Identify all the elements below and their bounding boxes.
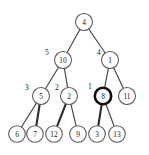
tree-edge-n1-n8 [105, 68, 109, 88]
tree-node-2: 2 [61, 88, 78, 105]
edge-label-4-n1: 4 [97, 48, 101, 57]
node-label-3: 3 [95, 130, 99, 139]
node-label-1: 1 [108, 56, 112, 65]
tree-node-1: 1 [102, 52, 119, 69]
node-label-11: 11 [123, 92, 130, 101]
tree-node-10: 10 [55, 52, 72, 69]
tree-node-8: 8 [95, 88, 111, 104]
tree-node-7: 7 [27, 126, 44, 143]
edge-label-1-n8: 1 [88, 82, 92, 91]
node-label-12: 12 [50, 130, 58, 139]
tree-node-11: 11 [119, 88, 136, 105]
tree-canvas: 41015281167129313 54321 [0, 0, 149, 155]
tree-edge-n5-n7 [36, 104, 39, 125]
tree-edge-n2-n12 [57, 104, 66, 126]
tree-node-12: 12 [46, 126, 63, 143]
tree-edge-n2-n9 [71, 104, 76, 126]
edge-label-5-n10: 5 [45, 48, 49, 57]
edge-label-3-n5: 3 [25, 83, 29, 92]
node-label-8: 8 [101, 92, 105, 101]
tree-node-4: 4 [76, 14, 93, 31]
node-label-7: 7 [33, 130, 37, 139]
node-label-6: 6 [15, 130, 19, 139]
edges-group [21, 29, 123, 127]
node-label-4: 4 [82, 18, 86, 27]
tree-edge-n10-n2 [64, 68, 67, 87]
node-label-5: 5 [39, 92, 43, 101]
node-label-10: 10 [59, 56, 67, 65]
tree-edge-n4-n10 [67, 29, 80, 52]
tree-node-9: 9 [70, 126, 87, 143]
tree-node-5: 5 [33, 88, 50, 105]
node-label-2: 2 [67, 92, 71, 101]
tree-edge-n8-n13 [106, 104, 114, 127]
binary-tree-figure: 41015281167129313 54321 [0, 0, 149, 155]
nodes-group: 41015281167129313 [9, 14, 136, 143]
edge-label-2-n2: 2 [55, 83, 59, 92]
node-label-13: 13 [113, 130, 121, 139]
tree-edge-n8-n3 [98, 104, 101, 126]
tree-node-13: 13 [109, 126, 126, 143]
tree-edge-n1-n11 [114, 68, 124, 89]
tree-node-6: 6 [9, 126, 26, 143]
tree-node-3: 3 [89, 126, 106, 143]
tree-edge-n5-n6 [21, 103, 36, 127]
node-label-9: 9 [76, 130, 80, 139]
